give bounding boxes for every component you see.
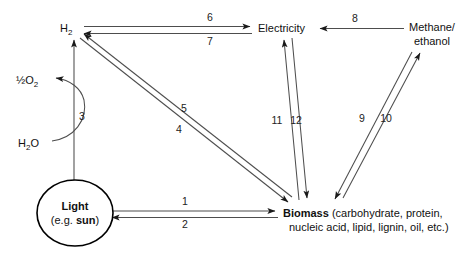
water-h: H <box>18 137 26 149</box>
hydrogen-subscript: 2 <box>68 28 73 37</box>
flow-diagram: H2 ½O2 H2O Light (e.g. sun) Electricity … <box>0 0 465 257</box>
edge-number-9: 9 <box>359 112 365 124</box>
node-label-electricity: Electricity <box>258 22 306 34</box>
node-label-half-oxygen: ½O2 <box>16 74 39 89</box>
node-label-hydrogen: H2 <box>60 22 73 37</box>
light-sun: sun <box>76 214 96 226</box>
edge-number-11: 11 <box>272 114 283 126</box>
edge-number-10: 10 <box>380 112 392 124</box>
node-label-biomass-line2: nucleic acid, lipid, lignin, oil, etc.) <box>289 221 449 233</box>
node-label-light-line1: Light <box>62 200 89 212</box>
edge-4-biomass-to-hydrogen <box>84 34 292 197</box>
edge-number-2: 2 <box>182 218 188 230</box>
light-prefix: (e.g. <box>51 214 76 226</box>
edge-number-8: 8 <box>352 12 358 24</box>
light-suffix: ) <box>95 214 99 226</box>
edge-number-4: 4 <box>176 123 182 135</box>
edge-number-7: 7 <box>207 35 213 47</box>
half-oxygen-subscript: 2 <box>34 80 39 89</box>
edge-5-hydrogen-to-biomass <box>80 38 288 202</box>
node-label-methane-line2: ethanol <box>414 35 450 47</box>
edge-number-1: 1 <box>182 195 188 207</box>
biomass-rest: (carbohydrate, protein, <box>329 207 443 219</box>
biomass-bold: Biomass <box>283 207 329 219</box>
edge-number-5: 5 <box>181 102 187 114</box>
node-label-light-line2: (e.g. sun) <box>51 214 99 226</box>
water-o: O <box>30 137 39 149</box>
light-node-circle <box>37 180 113 246</box>
half-oxygen-symbol: ½O <box>16 74 34 86</box>
edge-number-6: 6 <box>207 11 213 23</box>
node-label-water: H2O <box>18 137 39 152</box>
node-label-methane-line1: Methane/ <box>409 21 456 33</box>
edge-9-methane-to-biomass <box>335 52 412 199</box>
diagram-canvas: H2 ½O2 H2O Light (e.g. sun) Electricity … <box>0 0 465 257</box>
node-label-biomass-line1: Biomass (carbohydrate, protein, <box>283 207 443 219</box>
edge-10-biomass-to-methane <box>343 53 420 198</box>
edge-number-3: 3 <box>79 110 85 122</box>
hydrogen-symbol: H <box>60 22 68 34</box>
edge-number-12: 12 <box>290 114 302 126</box>
